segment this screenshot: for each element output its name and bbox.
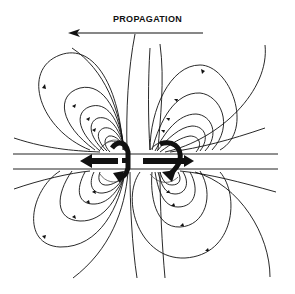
lower-right-field-lines xyxy=(132,171,276,278)
field-diagram: PROPAGATION xyxy=(0,0,295,294)
upper-right-field-lines xyxy=(149,44,266,152)
field-lines-figure xyxy=(0,0,295,294)
arrow-left-icon xyxy=(68,29,203,37)
lower-left-field-lines xyxy=(14,171,137,278)
upper-left-field-lines xyxy=(14,34,135,152)
